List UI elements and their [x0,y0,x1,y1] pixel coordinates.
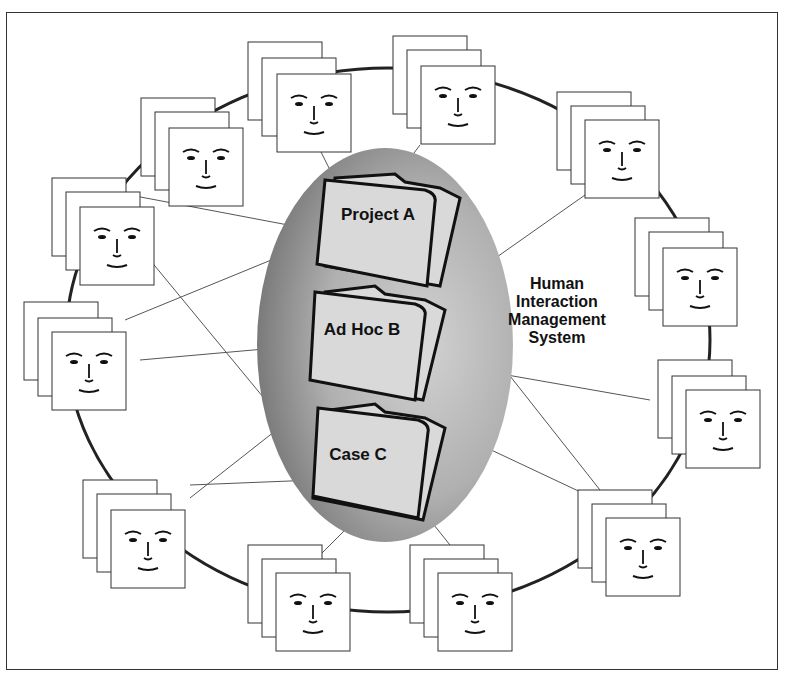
folder-project-a [317,174,460,286]
participant-stack-12 [141,98,243,206]
participant-stack-7 [410,545,512,651]
participant-stack-2 [393,36,495,144]
participant-stack-10 [24,302,126,410]
participant-stack-8 [248,545,350,651]
participant-stack-1 [248,42,351,152]
folder-label-case-c: Case C [318,445,398,465]
system-label-line-3: Management [492,311,622,329]
participant-stack-6 [578,490,680,596]
system-label-line-2: Interaction [492,293,622,311]
participant-stack-9 [83,480,185,588]
system-label-line-1: Human [492,275,622,293]
system-label-line-4: System [492,329,622,347]
folder-label-project-a: Project A [328,205,428,225]
participant-stack-11 [52,178,154,285]
system-label: Human Interaction Management System [492,275,622,347]
participant-stack-5 [658,360,760,468]
folder-label-ad-hoc-b: Ad Hoc B [312,320,412,340]
participant-stack-3 [557,92,659,198]
participant-stack-4 [635,218,737,326]
folder-ad-hoc-b [310,286,445,400]
